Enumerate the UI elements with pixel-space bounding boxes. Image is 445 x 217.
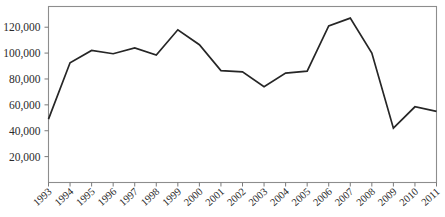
x-axis-labels: 1993199419951996199719981999200020012002…	[31, 185, 442, 208]
y-axis-labels: 20,00040,00060,00080,000100,000120,000	[3, 21, 41, 163]
y-tick-label: 20,000	[9, 151, 41, 164]
x-tick-label: 1998	[139, 186, 162, 208]
x-tick-label: 2004	[268, 185, 292, 208]
y-tick-label: 40,000	[9, 125, 41, 138]
x-tick-label: 1994	[52, 185, 76, 208]
x-tick-label: 2001	[203, 186, 226, 208]
x-tick-label: 2002	[225, 186, 248, 208]
y-tick-label: 80,000	[9, 73, 41, 86]
x-tick-label: 1996	[96, 186, 119, 208]
x-tick-label: 2006	[311, 186, 334, 208]
x-tick-label: 1995	[74, 186, 97, 208]
x-tick-label: 1997	[117, 186, 140, 208]
x-tick-label: 1999	[160, 186, 183, 208]
data-series-line	[49, 18, 437, 128]
x-tick-label: 2010	[397, 186, 420, 208]
y-axis-tick-marks	[45, 27, 49, 156]
x-tick-label: 2008	[354, 186, 377, 208]
y-tick-label: 120,000	[3, 21, 41, 34]
x-axis-tick-marks	[49, 183, 437, 187]
plot-frame	[49, 7, 437, 183]
x-tick-label: 2009	[376, 186, 399, 208]
y-tick-label: 100,000	[3, 47, 41, 60]
x-tick-label: 2007	[333, 186, 356, 208]
x-tick-label: 2011	[419, 186, 442, 208]
plot-area: 20,00040,00060,00080,000100,000120,000 1…	[3, 7, 442, 209]
y-tick-label: 60,000	[9, 99, 41, 112]
x-tick-label: 1993	[31, 186, 54, 208]
line-chart: 20,00040,00060,00080,000100,000120,000 1…	[0, 0, 445, 217]
x-tick-label: 2005	[290, 186, 313, 208]
x-tick-label: 2000	[182, 186, 205, 208]
x-tick-label: 2003	[246, 186, 269, 208]
chart-canvas: 20,00040,00060,00080,000100,000120,000 1…	[0, 0, 445, 217]
